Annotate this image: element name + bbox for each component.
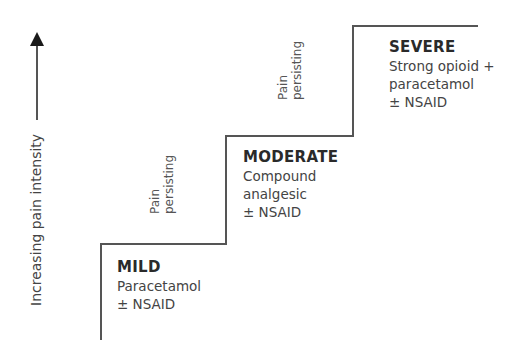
axis-arrow-shaft bbox=[36, 44, 38, 120]
transition-label-2: Pain persisting bbox=[276, 41, 304, 100]
step-line: ± NSAID bbox=[117, 295, 201, 313]
step-title: MILD bbox=[117, 258, 201, 277]
step-mild-tread bbox=[100, 243, 227, 245]
step-severe-tread bbox=[352, 25, 478, 27]
transition-label-1: Pain persisting bbox=[148, 155, 176, 214]
transition-line: persisting bbox=[162, 155, 176, 214]
transition-line: persisting bbox=[290, 41, 304, 100]
step-moderate: MODERATE Compound analgesic ± NSAID bbox=[243, 148, 338, 221]
step-line: Compound bbox=[243, 167, 338, 185]
step-severe: SEVERE Strong opioid + paracetamol ± NSA… bbox=[389, 38, 495, 111]
arrow-up-icon bbox=[30, 32, 44, 46]
step-moderate-riser bbox=[225, 135, 227, 245]
step-mild: MILD Paracetamol ± NSAID bbox=[117, 258, 201, 313]
step-line: analgesic bbox=[243, 185, 338, 203]
transition-line: Pain bbox=[148, 155, 162, 214]
step-line: paracetamol bbox=[389, 75, 495, 93]
step-title: SEVERE bbox=[389, 38, 495, 57]
transition-line: Pain bbox=[276, 41, 290, 100]
step-title: MODERATE bbox=[243, 148, 338, 167]
step-line: ± NSAID bbox=[243, 203, 338, 221]
step-moderate-tread bbox=[225, 135, 354, 137]
axis-label: Increasing pain intensity bbox=[28, 134, 44, 306]
step-severe-riser bbox=[352, 25, 354, 137]
step-line: Paracetamol bbox=[117, 277, 201, 295]
step-mild-riser bbox=[100, 243, 102, 340]
step-line: ± NSAID bbox=[389, 93, 495, 111]
step-line: Strong opioid + bbox=[389, 57, 495, 75]
